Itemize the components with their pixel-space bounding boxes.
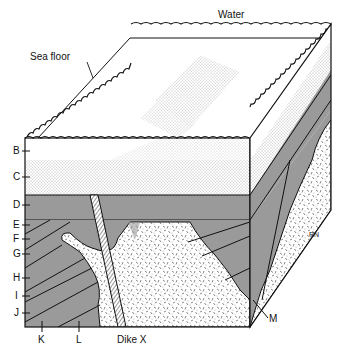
intrusion-label-m: M (269, 314, 277, 324)
layer-label-g: G (13, 249, 21, 259)
front-face (25, 138, 250, 327)
layer-label-f: F (13, 234, 19, 244)
bottom-label-k: K (38, 335, 45, 345)
layer-label-b: B (13, 146, 20, 156)
layer-label-e: E (13, 220, 20, 230)
sea-floor-label: Sea floor (30, 52, 70, 62)
layer-label-h: H (13, 273, 20, 283)
water-label: Water (218, 10, 244, 20)
dike-x-label: Dike X (117, 335, 146, 345)
layer-label-d: D (13, 200, 20, 210)
layer-label-i: I (15, 291, 18, 301)
layer-label-c: C (13, 172, 20, 182)
bottom-label-l: L (76, 335, 82, 345)
side-label-rn: RN (309, 231, 319, 238)
layer-label-j: J (14, 308, 19, 318)
